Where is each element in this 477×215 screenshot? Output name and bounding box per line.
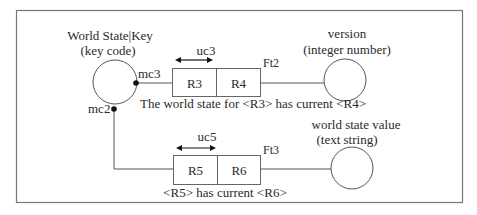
role-connector	[114, 109, 173, 169]
mandatory-dot	[111, 106, 117, 112]
entity-world-state-value[interactable]: world state value (text string)	[312, 117, 401, 189]
entity-type: (text string)	[316, 132, 377, 147]
fact-reading: The world state for <R3> has current <R4…	[140, 96, 366, 111]
entity-type: (key code)	[80, 43, 135, 58]
entity-circle[interactable]	[93, 60, 137, 104]
entity-version[interactable]: version (integer number)	[303, 26, 391, 101]
entity-type: (integer number)	[303, 42, 391, 57]
fact-type-ft3[interactable]: R5 R6 Ft3 uc5 <R5> has current <R6> mc2	[88, 101, 331, 200]
entity-name: version	[328, 26, 367, 41]
fact-id: Ft3	[263, 143, 279, 157]
mandatory-label: mc2	[88, 101, 110, 116]
mandatory-dot	[133, 80, 139, 86]
entity-circle[interactable]	[331, 147, 373, 189]
role-label-r3: R3	[187, 76, 202, 91]
fact-reading: <R5> has current <R6>	[163, 185, 287, 200]
role-label-r6: R6	[231, 163, 247, 178]
mandatory-label: mc3	[138, 66, 160, 81]
role-label-r5: R5	[188, 163, 203, 178]
role-label-r4: R4	[231, 76, 247, 91]
entity-name: world state value	[312, 117, 401, 132]
entity-circle[interactable]	[324, 59, 366, 101]
uniqueness-label: uc3	[197, 43, 216, 58]
uniqueness-label: uc5	[198, 129, 217, 144]
orm-diagram: World State|Key (key code) version (inte…	[0, 0, 477, 215]
uniqueness-constraint-arrow	[176, 145, 216, 151]
entity-name: World State|Key	[67, 28, 153, 43]
fact-id: Ft2	[263, 56, 279, 70]
